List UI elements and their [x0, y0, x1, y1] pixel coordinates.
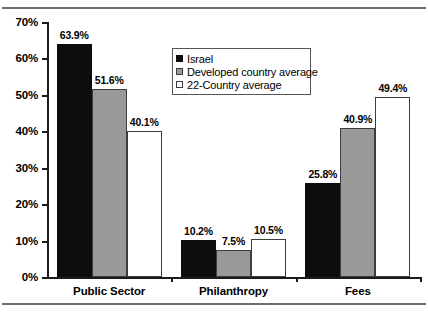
y-axis-tick-label: 0% [22, 271, 38, 283]
y-axis-tick [42, 277, 47, 279]
legend-label-developed-country-average: Developed country average [187, 66, 318, 78]
x-axis-tick [420, 277, 422, 282]
bar-value-label: 40.9% [343, 113, 372, 125]
y-axis-tick-label: 60% [16, 52, 38, 64]
bar-value-label: 10.2% [184, 225, 213, 237]
bar-value-label: 7.5% [222, 235, 245, 247]
y-axis-tick [42, 168, 47, 170]
bar [127, 131, 162, 277]
y-axis-tick-label: 30% [16, 162, 38, 174]
bar-value-label: 49.4% [378, 82, 407, 94]
bar [216, 250, 251, 277]
bar [181, 240, 216, 277]
y-axis-tick [42, 22, 47, 24]
legend-swatch-icon-22-country-average [176, 81, 183, 88]
bar [57, 44, 92, 277]
bar-value-label: 10.5% [254, 224, 283, 236]
legend-swatch-icon-israel [176, 55, 183, 62]
chart-legend: Israel Developed country average 22-Coun… [172, 48, 311, 95]
x-axis-tick [171, 277, 173, 282]
legend-item-developed-country-average: Developed country average [176, 65, 306, 78]
x-axis-tick [296, 277, 298, 282]
y-axis-tick [42, 131, 47, 133]
category-label: Philanthropy [199, 285, 268, 297]
chart-figure: 0%10%20%30%40%50%60%70% 63.9%51.6%40.1%1… [0, 0, 428, 313]
y-axis-tick [42, 241, 47, 243]
bar [251, 239, 286, 277]
y-axis-tick-label: 50% [16, 89, 38, 101]
y-axis-tick-label: 70% [16, 16, 38, 28]
top-border-rule [2, 7, 426, 9]
bar-value-label: 40.1% [130, 116, 159, 128]
category-label: Fees [345, 285, 371, 297]
bar-value-label: 51.6% [95, 74, 124, 86]
y-axis-tick [42, 58, 47, 60]
bar [305, 183, 340, 277]
y-axis-tick-label: 20% [16, 198, 38, 210]
category-label: Public Sector [73, 285, 145, 297]
bar [340, 128, 375, 277]
bar [92, 89, 127, 277]
y-axis-tick-label: 10% [16, 235, 38, 247]
x-axis-line [47, 277, 420, 279]
y-axis-tick [42, 95, 47, 97]
legend-label-israel: Israel [187, 53, 213, 65]
bar-value-label: 25.8% [308, 168, 337, 180]
legend-item-22-country-average: 22-Country average [176, 78, 306, 91]
bar [375, 97, 410, 277]
y-axis-tick-label: 40% [16, 125, 38, 137]
y-axis-tick [42, 204, 47, 206]
bottom-border-rule [2, 303, 426, 305]
legend-label-22-country-average: 22-Country average [187, 79, 282, 91]
legend-item-israel: Israel [176, 52, 306, 65]
legend-swatch-icon-developed-country-average [176, 68, 183, 75]
bar-value-label: 63.9% [60, 29, 89, 41]
